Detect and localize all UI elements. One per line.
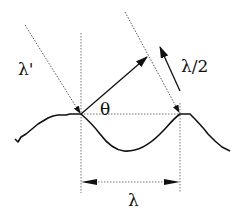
surface-wave-diagram: λ' θ λ/2 λ xyxy=(0,0,245,215)
incident-wavelength-label: λ' xyxy=(18,61,33,78)
diffracted-ray-arrow xyxy=(81,57,147,114)
incident-ray-right xyxy=(125,12,179,112)
surface-profile-curve xyxy=(15,114,230,151)
arrowhead-right-icon xyxy=(164,179,180,185)
angle-label: θ xyxy=(100,101,110,118)
diagram-graphic xyxy=(0,0,245,215)
half-wavelength-arrow xyxy=(160,47,180,91)
half-wavelength-label: λ/2 xyxy=(181,58,208,75)
arrowhead-left-icon xyxy=(81,179,97,185)
wavelength-label: λ xyxy=(128,192,139,209)
